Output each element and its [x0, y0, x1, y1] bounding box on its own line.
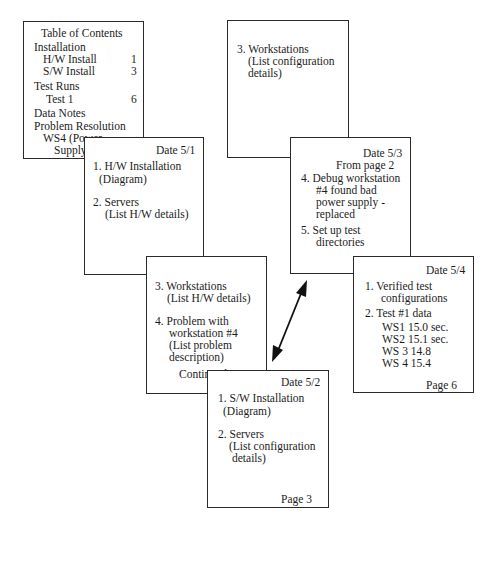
item-line: power supply - [316, 196, 385, 208]
test-result: WS1 15.0 sec. [382, 321, 448, 333]
item-line: 2. Servers [218, 428, 264, 440]
item-line: replaced [316, 208, 355, 220]
page-date: Date 5/2 [281, 376, 320, 388]
page-date: Date 5/1 [156, 144, 195, 156]
item-line: 2. Test #1 data [365, 307, 432, 319]
item-line: (Diagram) [223, 405, 271, 417]
page-date: Date 5/3 [363, 147, 402, 159]
item-line: (List H/W details) [105, 208, 188, 220]
test-result: WS 4 15.4 [382, 357, 431, 369]
item-line: 3. Workstations [237, 43, 309, 55]
notebook-page-5: Date 5/3 From page 2 4. Debug workstatio… [290, 137, 411, 274]
toc-title: Table of Contents [41, 27, 123, 39]
item-line: details) [232, 452, 266, 464]
toc-section: Test Runs [34, 80, 80, 92]
test-result: WS2 15.1 sec. [382, 333, 448, 345]
item-line: 4. Problem with [155, 315, 229, 327]
toc-section: Problem Resolution [34, 120, 126, 132]
item-line: 4. Debug workstation [301, 172, 400, 184]
toc-section: Installation [34, 41, 86, 53]
notebook-page-3: Date 5/2 1. S/W Installation (Diagram) 2… [207, 370, 329, 508]
item-line: 2. Servers [93, 196, 139, 208]
item-line: description) [169, 351, 224, 363]
notebook-page-6: Date 5/4 1. Verified test configurations… [353, 256, 474, 393]
notebook-page-1: Date 5/1 1. H/W Installation (Diagram) 2… [84, 137, 204, 275]
item-line: directories [316, 236, 365, 248]
item-line: 3. Workstations [155, 280, 227, 292]
item-line: (List configuration [229, 440, 316, 452]
page-footer: Page 3 [281, 493, 312, 505]
toc-page-number: 6 [131, 93, 137, 105]
toc-entry: S/W Install [43, 65, 95, 77]
toc-page-number: 3 [131, 65, 137, 77]
item-line: (List configuration [248, 55, 335, 67]
item-line: workstation #4 [169, 327, 238, 339]
item-line: configurations [381, 292, 447, 304]
toc-section: Data Notes [34, 107, 85, 119]
item-line: (List problem [169, 339, 232, 351]
item-line: (Diagram) [99, 173, 147, 185]
item-line: 1. H/W Installation [93, 160, 181, 172]
toc-entry: Test 1 [46, 93, 74, 105]
item-line: details) [248, 67, 282, 79]
item-line: (List H/W details) [167, 292, 250, 304]
item-line: 1. Verified test [365, 280, 432, 292]
test-result: WS 3 14.8 [382, 345, 431, 357]
from-reference: From page 2 [336, 159, 394, 171]
item-line: 5. Set up test [301, 224, 360, 236]
item-line: 1. S/W Installation [218, 392, 304, 404]
page-date: Date 5/4 [426, 264, 465, 276]
item-line: #4 found bad [316, 184, 377, 196]
page-footer: Page 6 [426, 379, 457, 391]
toc-page-number: 1 [131, 53, 137, 65]
toc-entry: H/W Install [43, 53, 97, 65]
